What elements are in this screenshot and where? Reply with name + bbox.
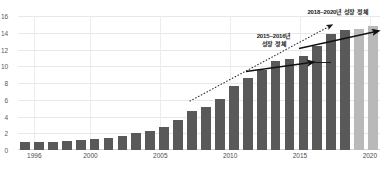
- bar: [159, 127, 169, 150]
- bar: [20, 142, 30, 150]
- y-axis-tick: 10: [1, 63, 8, 70]
- bar-chart: 16 14 12 10 8 6 4 2 0 1996 2000 2005 201…: [0, 0, 386, 174]
- x-axis-tick: 2000: [83, 152, 97, 159]
- bar: [326, 34, 336, 150]
- y-axis-tick: 14: [1, 29, 8, 36]
- y-axis-tick: 16: [1, 13, 8, 20]
- bar: [90, 139, 100, 150]
- x-axis-labels: 1996 2000 2005 2010 2015 2020: [18, 152, 380, 168]
- bar: [299, 56, 309, 150]
- annotation-stagnation-2015-2016: 2015~2016년 성장 정체: [249, 33, 299, 48]
- bar: [312, 46, 322, 150]
- plot-area: [18, 16, 380, 150]
- y-axis-tick: 8: [4, 80, 8, 87]
- y-axis-tick: 0: [4, 147, 8, 154]
- bar: [173, 120, 183, 150]
- y-axis-tick: 4: [4, 113, 8, 120]
- bar: [354, 29, 364, 150]
- bar: [104, 138, 114, 150]
- bar: [257, 70, 267, 150]
- bar: [368, 26, 378, 150]
- x-axis-tick: 2020: [363, 152, 377, 159]
- y-axis-tick: 2: [4, 130, 8, 137]
- bar: [118, 136, 128, 150]
- bar: [76, 140, 86, 150]
- bar: [271, 61, 281, 150]
- bar: [48, 142, 58, 150]
- x-axis-tick: 2010: [223, 152, 237, 159]
- bar: [340, 30, 350, 150]
- annotation-stagnation-2018-2020: 2018~2020년 성장 정체: [293, 9, 383, 17]
- x-axis-tick: 2005: [153, 152, 167, 159]
- bar-series: [18, 16, 380, 150]
- y-axis-tick: 6: [4, 96, 8, 103]
- bar: [285, 59, 295, 150]
- bar: [187, 111, 197, 150]
- bar: [34, 142, 44, 150]
- x-axis-tick: 2015: [293, 152, 307, 159]
- bar: [201, 107, 211, 150]
- bar: [62, 141, 72, 150]
- bar: [215, 99, 225, 150]
- y-axis-tick: 12: [1, 46, 8, 53]
- bar: [243, 78, 253, 150]
- bar: [131, 133, 141, 150]
- x-axis-tick: 1996: [27, 152, 41, 159]
- bar: [145, 131, 155, 150]
- bar: [229, 86, 239, 150]
